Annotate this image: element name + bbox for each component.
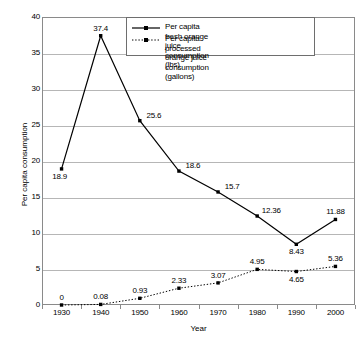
data-label: 4.65 [289, 276, 304, 284]
data-point-marker [99, 34, 102, 37]
data-label: 37.4 [93, 25, 108, 33]
data-point-marker [216, 281, 219, 284]
data-label: 0.08 [93, 293, 108, 301]
data-point-marker [60, 303, 63, 306]
data-point-marker [177, 169, 180, 172]
data-label: 2.33 [172, 277, 187, 285]
data-label: 18.9 [52, 173, 67, 181]
data-point-marker [138, 119, 141, 122]
data-point-marker [295, 270, 298, 273]
data-point-marker [334, 265, 337, 268]
data-point-marker [295, 243, 298, 246]
data-point-marker [255, 214, 258, 217]
data-label: 5.36 [328, 255, 343, 263]
chart-legend: Per capita fresh orange juice consumptio… [126, 17, 315, 56]
data-label: 4.95 [250, 258, 265, 266]
data-label: 25.6 [146, 112, 161, 120]
data-label: 12.36 [262, 207, 281, 215]
data-point-marker [216, 190, 219, 193]
data-label: 8.43 [289, 248, 304, 256]
data-label: 3.07 [211, 272, 226, 280]
data-point-marker [334, 218, 337, 221]
data-point-marker [60, 167, 63, 170]
legend-marker [144, 38, 148, 42]
legend-key-solid-line-icon [131, 23, 161, 33]
data-label: 0.93 [132, 287, 147, 295]
data-label: 15.7 [225, 183, 240, 191]
data-point-marker [99, 303, 102, 306]
legend-key-dotted-line-icon [131, 35, 161, 45]
data-label: 0 [59, 294, 63, 302]
data-point-marker [138, 297, 141, 300]
data-label: 11.88 [326, 208, 344, 216]
data-label: 18.6 [186, 162, 201, 170]
legend-marker [144, 26, 148, 30]
data-point-marker [255, 268, 258, 271]
legend-label-processed: Per capita processed orange juice consum… [165, 34, 209, 82]
data-point-marker [177, 287, 180, 290]
orange-juice-consumption-chart: 0510152025303540 Per capita consumption … [0, 0, 364, 344]
